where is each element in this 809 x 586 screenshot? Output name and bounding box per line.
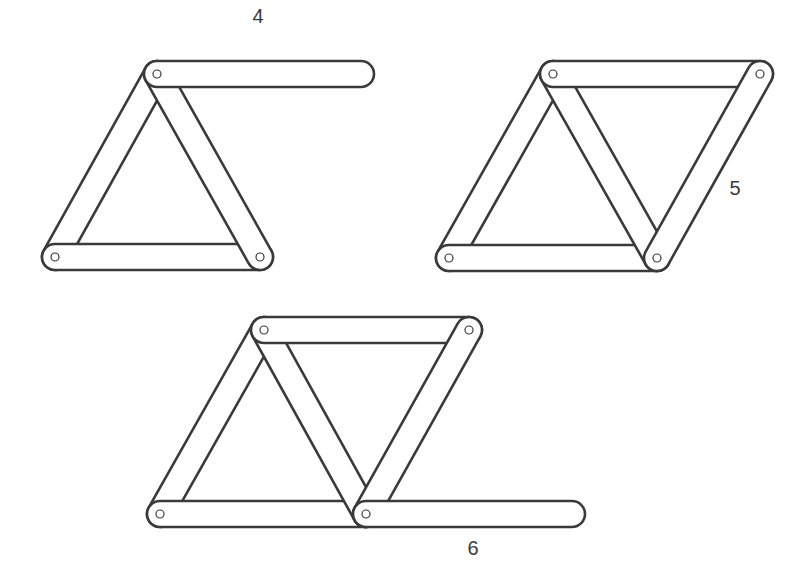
linkage-bar xyxy=(260,326,469,334)
linkage-bar xyxy=(549,70,760,78)
linkage-bar xyxy=(51,253,260,261)
figure-6-linkage xyxy=(156,326,572,518)
pivot-pin-icon xyxy=(51,253,59,261)
linkage-bar xyxy=(51,70,161,261)
figure-5-label: 5 xyxy=(729,177,740,199)
linkage-bar xyxy=(264,330,366,514)
figure-4-linkage xyxy=(51,70,361,261)
linkage-bar xyxy=(366,326,473,514)
pivot-pin-icon xyxy=(653,254,661,262)
figure-4-label: 4 xyxy=(252,5,263,27)
figure-5-linkage xyxy=(445,70,764,262)
linkage-bar xyxy=(157,74,264,261)
linkage-bar xyxy=(156,510,366,518)
pivot-pin-icon xyxy=(445,254,453,262)
linkage-diagram: 4 5 6 xyxy=(0,0,809,586)
linkage-bar xyxy=(362,510,572,518)
linkage-bar xyxy=(449,74,553,258)
linkage-bar xyxy=(653,70,764,262)
linkage-bar xyxy=(153,70,361,78)
linkage-bar xyxy=(160,330,264,514)
linkage-bar xyxy=(445,254,657,262)
linkage-bar xyxy=(553,74,657,258)
pivot-pin-icon xyxy=(756,70,764,78)
pivot-pin-icon xyxy=(153,70,161,78)
pivot-pin-icon xyxy=(156,510,164,518)
pivot-pin-icon xyxy=(260,326,268,334)
pivot-pin-icon xyxy=(362,510,370,518)
figure-6-label: 6 xyxy=(467,537,478,559)
pivot-pin-icon xyxy=(549,70,557,78)
pivot-pin-icon xyxy=(256,253,264,261)
pivot-pin-icon xyxy=(465,326,473,334)
